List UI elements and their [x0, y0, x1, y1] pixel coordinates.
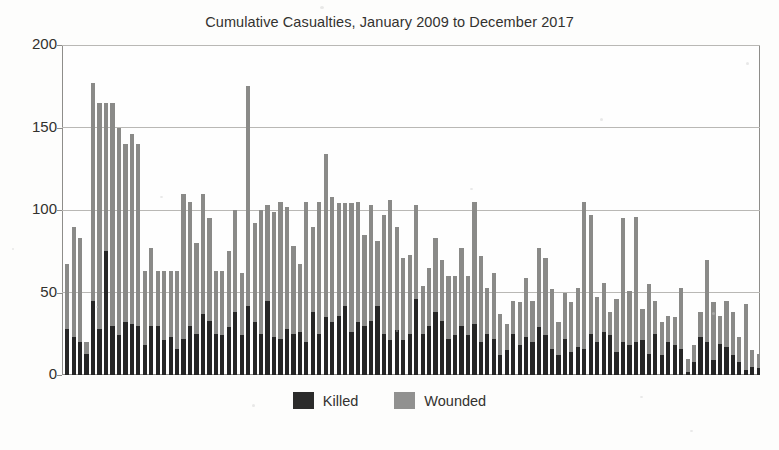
- bar-column: [498, 314, 502, 375]
- bar-segment-killed: [143, 345, 147, 375]
- bar-segment-killed: [511, 334, 515, 375]
- bar-column: [220, 271, 224, 375]
- bar-segment-killed: [537, 327, 541, 375]
- bar-segment-killed: [207, 321, 211, 375]
- bar-segment-killed: [175, 349, 179, 375]
- bar-column: [673, 317, 677, 375]
- bar-segment-killed: [453, 335, 457, 375]
- bar-segment-killed: [291, 334, 295, 375]
- legend-label-killed: Killed: [323, 393, 358, 409]
- bar-segment-killed: [169, 337, 173, 375]
- bar-column: [453, 276, 457, 375]
- bar-segment-killed: [78, 342, 82, 375]
- bar-segment-killed: [427, 326, 431, 376]
- bar-column: [194, 243, 198, 375]
- bar-column: [240, 273, 244, 375]
- bar-segment-killed: [72, 337, 76, 375]
- bar-segment-killed: [518, 345, 522, 375]
- bar-segment-killed: [621, 342, 625, 375]
- bar-column: [595, 297, 599, 375]
- bar-column: [524, 278, 528, 375]
- bar-segment-killed: [395, 330, 399, 375]
- bar-segment-killed: [485, 334, 489, 375]
- y-axis-tick-label-200: 200: [11, 36, 57, 51]
- bar-column: [362, 235, 366, 375]
- bar-segment-killed: [227, 327, 231, 375]
- bar-segment-killed: [679, 349, 683, 375]
- bar-segment-killed: [259, 334, 263, 375]
- bar-column: [614, 299, 618, 375]
- bar-column: [666, 316, 670, 375]
- bar-segment-killed: [524, 337, 528, 375]
- bar-segment-killed: [97, 329, 101, 375]
- bar-column: [576, 288, 580, 375]
- bar-column: [459, 248, 463, 375]
- bar-segment-killed: [181, 339, 185, 375]
- bar-column: [369, 205, 373, 375]
- bar-segment-killed: [666, 342, 670, 375]
- y-axis-tick-mark-50: [57, 293, 62, 294]
- bar-column: [337, 203, 341, 375]
- bar-segment-killed: [446, 339, 450, 375]
- bar-column: [505, 324, 509, 375]
- bar-segment-killed: [149, 326, 153, 376]
- bar-column: [91, 83, 95, 375]
- bar-column: [78, 238, 82, 375]
- y-axis-tick-mark-0: [57, 375, 62, 376]
- bar-column: [343, 203, 347, 375]
- bar-segment-killed: [349, 332, 353, 375]
- bar-segment-killed: [737, 362, 741, 375]
- bar-column: [446, 276, 450, 375]
- y-axis-tick-label-100: 100: [11, 201, 57, 216]
- bar-segment-killed: [556, 355, 560, 375]
- bar-segment-killed: [388, 340, 392, 375]
- bar-segment-killed: [278, 339, 282, 375]
- bar-segment-killed: [705, 342, 709, 375]
- bar-column: [421, 286, 425, 375]
- bar-column: [207, 218, 211, 375]
- bar-column: [401, 258, 405, 375]
- bar-column: [246, 86, 250, 375]
- bar-segment-killed: [272, 337, 276, 375]
- bar-segment-killed: [382, 334, 386, 375]
- bar-column: [750, 350, 754, 375]
- y-axis-tick-label-150: 150: [11, 119, 57, 134]
- bar-column: [634, 217, 638, 375]
- bar-column: [479, 256, 483, 375]
- bar-segment-killed: [337, 316, 341, 375]
- bar-segment-killed: [194, 334, 198, 375]
- bar-segment-killed: [505, 350, 509, 375]
- legend-item-killed: Killed: [293, 392, 358, 409]
- bar-segment-killed: [492, 339, 496, 375]
- bar-column: [317, 202, 321, 375]
- bar-column: [97, 103, 101, 375]
- bar-column: [136, 144, 140, 375]
- bar-column: [201, 194, 205, 376]
- bar-segment-killed: [253, 322, 257, 375]
- bar-column: [737, 337, 741, 375]
- scan-artifact: [690, 430, 693, 432]
- bar-column: [627, 291, 631, 375]
- bar-segment-killed: [324, 317, 328, 375]
- legend-swatch-wounded: [394, 392, 415, 409]
- bar-segment-killed: [731, 355, 735, 375]
- bar-column: [433, 238, 437, 375]
- bar-segment-killed: [233, 312, 237, 375]
- bar-column: [272, 212, 276, 375]
- bar-segment-killed: [214, 334, 218, 375]
- bar-column: [744, 304, 748, 375]
- bar-column: [537, 248, 541, 375]
- bar-segment-killed: [401, 340, 405, 375]
- bar-column: [330, 197, 334, 375]
- legend-item-wounded: Wounded: [394, 392, 486, 409]
- bar-segment-killed: [602, 332, 606, 375]
- bar-column: [388, 200, 392, 375]
- bar-column: [143, 271, 147, 375]
- bar-segment-killed: [711, 360, 715, 375]
- bar-segment-killed: [479, 342, 483, 375]
- bar-column: [640, 309, 644, 375]
- bar-segment-killed: [660, 355, 664, 375]
- bar-column: [492, 273, 496, 375]
- bar-segment-killed: [595, 342, 599, 375]
- bar-segment-killed: [188, 326, 192, 376]
